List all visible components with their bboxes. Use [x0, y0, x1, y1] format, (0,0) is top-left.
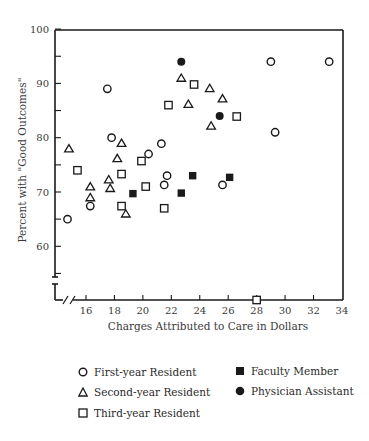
x-tick-label: 26: [222, 305, 235, 316]
data-point: [64, 215, 71, 222]
data-point: [190, 81, 197, 88]
legend-label: Second-year Resident: [94, 386, 210, 398]
data-point: [118, 170, 125, 177]
legend-item-faculty: Faculty Member: [235, 365, 338, 377]
legend-label: Third-year Resident: [94, 407, 200, 419]
data-point: [207, 122, 216, 129]
x-tick-label: 30: [279, 305, 292, 316]
data-point: [233, 113, 240, 120]
legend-label: Faculty Member: [251, 365, 338, 377]
data-point: [161, 205, 168, 212]
data-point: [108, 134, 115, 141]
x-axis-break: [63, 296, 68, 304]
data-point: [218, 95, 227, 102]
x-tick-label: 16: [80, 305, 93, 316]
data-points: [64, 58, 333, 304]
data-point: [113, 154, 122, 161]
y-tick-label: 80: [36, 132, 49, 143]
x-tick-label: 22: [165, 305, 178, 316]
data-point: [161, 181, 168, 188]
data-point: [138, 157, 145, 164]
data-point: [226, 174, 233, 181]
x-tick-label: 34: [336, 305, 349, 316]
x-tick-label: 20: [137, 305, 150, 316]
data-point: [163, 172, 170, 179]
filled-square-icon: [235, 366, 245, 376]
open-square-icon: [78, 408, 88, 418]
data-point: [216, 112, 224, 120]
x-tick-label: 18: [108, 305, 121, 316]
data-point: [87, 202, 94, 209]
y-axis-title: Percent with "Good Outcomes": [16, 77, 28, 242]
scatter-chart: 6070809010016182022242628303234 Charges …: [0, 0, 369, 360]
x-tick-label: 28: [250, 305, 263, 316]
data-point: [205, 84, 214, 91]
y-tick-label: 100: [30, 24, 49, 35]
data-point: [177, 58, 185, 66]
data-point: [86, 183, 95, 190]
data-point: [184, 100, 193, 107]
data-point: [267, 58, 274, 65]
legend-item-second-year: Second-year Resident: [78, 386, 210, 398]
legend-label: First-year Resident: [94, 366, 196, 378]
data-point: [65, 145, 74, 152]
filled-circle-icon: [235, 386, 245, 396]
x-axis-title: Charges Attributed to Care in Dollars: [108, 320, 308, 332]
y-tick-label: 90: [36, 78, 49, 89]
data-point: [118, 202, 125, 209]
data-point: [178, 189, 185, 196]
data-point: [219, 181, 226, 188]
data-point: [165, 101, 172, 108]
data-point: [117, 139, 126, 146]
y-tick-label: 60: [36, 241, 49, 252]
y-tick-label: 70: [36, 187, 49, 198]
data-point: [177, 74, 186, 81]
legend-item-physician-assistant: Physician Assistant: [235, 385, 354, 397]
data-point: [129, 190, 136, 197]
open-triangle-icon: [78, 387, 88, 397]
data-point: [253, 296, 260, 303]
legend-label: Physician Assistant: [251, 385, 354, 397]
open-circle-icon: [78, 367, 88, 377]
data-point: [74, 167, 81, 174]
data-point: [122, 210, 131, 217]
data-point: [271, 129, 278, 136]
data-point: [104, 85, 111, 92]
legend-item-third-year: Third-year Resident: [78, 407, 200, 419]
legend-item-first-year: First-year Resident: [78, 366, 196, 378]
data-point: [158, 140, 165, 147]
data-point: [86, 193, 95, 200]
x-tick-label: 32: [307, 305, 320, 316]
x-tick-label: 24: [193, 305, 206, 316]
data-point: [145, 150, 152, 157]
data-point: [325, 58, 332, 65]
data-point: [104, 176, 113, 183]
data-point: [189, 172, 196, 179]
data-point: [106, 184, 115, 191]
data-point: [142, 183, 149, 190]
